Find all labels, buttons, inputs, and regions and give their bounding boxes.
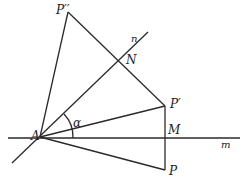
label-n: n <box>131 33 137 44</box>
label-alpha: α <box>73 116 81 130</box>
segment-A-P2 <box>40 12 68 137</box>
label-M: M <box>167 123 181 137</box>
segment-P2-P1 <box>68 12 165 106</box>
label-P1: P′ <box>169 97 181 111</box>
label-A: A <box>30 129 40 143</box>
label-P: P <box>168 164 178 178</box>
reflection-diagram: A P′′ n N P′ α M m P <box>0 0 247 192</box>
label-N: N <box>125 53 137 67</box>
line-n <box>12 32 148 163</box>
segment-A-P <box>40 137 165 170</box>
label-P2: P′′ <box>55 3 70 17</box>
segment-A-P1 <box>40 106 165 137</box>
label-m: m <box>221 139 230 150</box>
angle-alpha-arc <box>64 114 73 138</box>
